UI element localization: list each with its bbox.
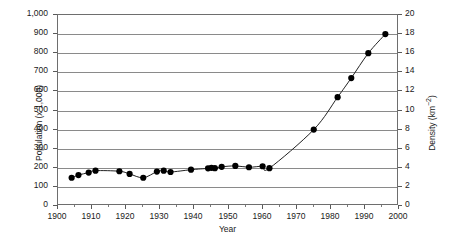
x-axis-tick-label: 1960 [253,211,272,221]
y-axis-tick-left [53,167,57,168]
data-point [116,168,122,174]
data-point [140,175,146,181]
y-axis-tick-right [398,129,402,130]
x-axis-tick-minor [381,205,382,207]
plot-area [57,14,398,205]
y-axis-tick-left [53,52,57,53]
data-point [232,163,238,169]
x-axis-tick [125,205,126,209]
x-axis-tick-minor [210,205,211,207]
y-axis-tick-right [398,110,402,111]
y-axis-tick-right [398,186,402,187]
y-axis-tick-left [53,129,57,130]
y-axis-tick-label-left: 0 [43,200,48,209]
x-axis-tick-label: 2000 [389,211,408,221]
y-axis-tick-label-left: 600 [34,85,48,94]
x-axis-tick-minor [245,205,246,207]
x-axis-tick-label: 1980 [321,211,340,221]
data-point [260,163,266,169]
data-point [335,94,341,100]
y-axis-tick-right [398,71,402,72]
y-axis-tick-label-left: 800 [34,47,48,56]
x-axis-tick-label: 1910 [82,211,101,221]
data-point [127,171,133,177]
data-point [365,50,371,56]
y-axis-tick-left [53,110,57,111]
data-point [219,164,225,170]
y-axis-tick-left [53,148,57,149]
y-axis-tick-label-left: 300 [34,143,48,152]
x-axis-tick [296,205,297,209]
y-axis-tick-label-left: 400 [34,124,48,133]
x-axis-tick [262,205,263,209]
y-axis-tick-right [398,33,402,34]
x-axis-tick-label: 1940 [184,211,203,221]
data-point [348,75,354,81]
x-axis-tick-minor [279,205,280,207]
y-axis-tick-label-left: 900 [34,28,48,37]
data-point [86,169,92,175]
x-axis-tick [57,205,58,209]
y-axis-tick-label-left: 700 [34,66,48,75]
data-point [75,172,81,178]
data-series-layer [58,15,399,206]
x-axis-tick-label: 1920 [116,211,135,221]
y-axis-tick-label-right: 0 [405,200,410,209]
x-axis-tick-minor [108,205,109,207]
x-axis-tick-label: 1900 [48,211,67,221]
x-axis-tick-label: 1930 [150,211,169,221]
x-axis-tick-minor [347,205,348,207]
y-axis-tick-right [398,52,402,53]
y-axis-tick-left [53,33,57,34]
data-point [382,31,388,37]
x-axis-tick-label: 1970 [287,211,306,221]
population-density-chart: Population (x 1,000) Density (km−2) Year… [0,0,457,245]
x-axis-tick-label: 1950 [219,211,238,221]
data-point [69,175,75,181]
y-axis-tick-left [53,71,57,72]
series-markers-population [69,31,389,181]
y-axis-title-right: Density (km−2) [425,95,437,151]
y-axis-tick-label-left: 500 [34,105,48,114]
y-axis-tick-label-right: 2 [405,181,410,190]
y-axis-tick-label-right: 12 [405,85,414,94]
y-axis-tick-left [53,14,57,15]
x-axis-tick [398,205,399,209]
data-point [167,169,173,175]
data-point [154,169,160,175]
y-axis-tick-label-right: 16 [405,47,414,56]
y-axis-tick-label-right: 10 [405,105,414,114]
y-axis-tick-label-left: 1,000 [27,9,48,18]
y-axis-tick-label-right: 20 [405,9,414,18]
y-axis-tick-right [398,148,402,149]
x-axis-tick [159,205,160,209]
x-axis-tick-minor [142,205,143,207]
x-axis-tick [193,205,194,209]
x-axis-tick-label: 1990 [355,211,374,221]
x-axis-tick-minor [176,205,177,207]
x-axis-tick [228,205,229,209]
y-axis-tick-label-right: 18 [405,28,414,37]
y-axis-tick-label-right: 8 [405,124,410,133]
x-axis-tick [91,205,92,209]
data-point [188,167,194,173]
x-axis-tick [330,205,331,209]
y-axis-tick-label-left: 200 [34,162,48,171]
y-axis-tick-right [398,167,402,168]
y-axis-tick-left [53,186,57,187]
x-axis-tick-minor [313,205,314,207]
y-axis-tick-label-left: 100 [34,181,48,190]
y-axis-tick-label-right: 14 [405,66,414,75]
data-point [246,164,252,170]
y-axis-tick-left [53,90,57,91]
y-axis-tick-right [398,14,402,15]
data-point [212,165,218,171]
x-axis-tick [364,205,365,209]
series-line-population [72,34,386,178]
x-axis-title: Year [57,224,398,234]
data-point [92,168,98,174]
y-axis-tick-label-right: 6 [405,143,410,152]
data-point [311,127,317,133]
y-axis-tick-label-right: 4 [405,162,410,171]
data-point [266,165,272,171]
